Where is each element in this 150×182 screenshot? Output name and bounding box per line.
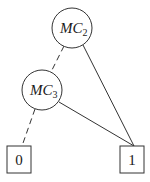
terminal-1: 1: [120, 146, 144, 173]
node-mc2-label: MC: [59, 20, 83, 36]
bdd-diagram: MC2 MC3 0 1: [0, 0, 150, 182]
node-mc3-subscript: 3: [53, 89, 58, 100]
node-mc3-label: MC: [29, 82, 53, 98]
node-mc3: MC3: [22, 70, 62, 110]
terminal-0: 0: [7, 146, 31, 173]
edge-mc3-to-0-dashed: [22, 109, 35, 146]
node-mc2: MC2: [52, 8, 92, 48]
node-mc2-subscript: 2: [83, 27, 88, 38]
edge-mc2-to-mc3-dashed: [51, 46, 64, 72]
terminal-0-label: 0: [15, 152, 23, 168]
terminal-1-label: 1: [128, 152, 136, 168]
